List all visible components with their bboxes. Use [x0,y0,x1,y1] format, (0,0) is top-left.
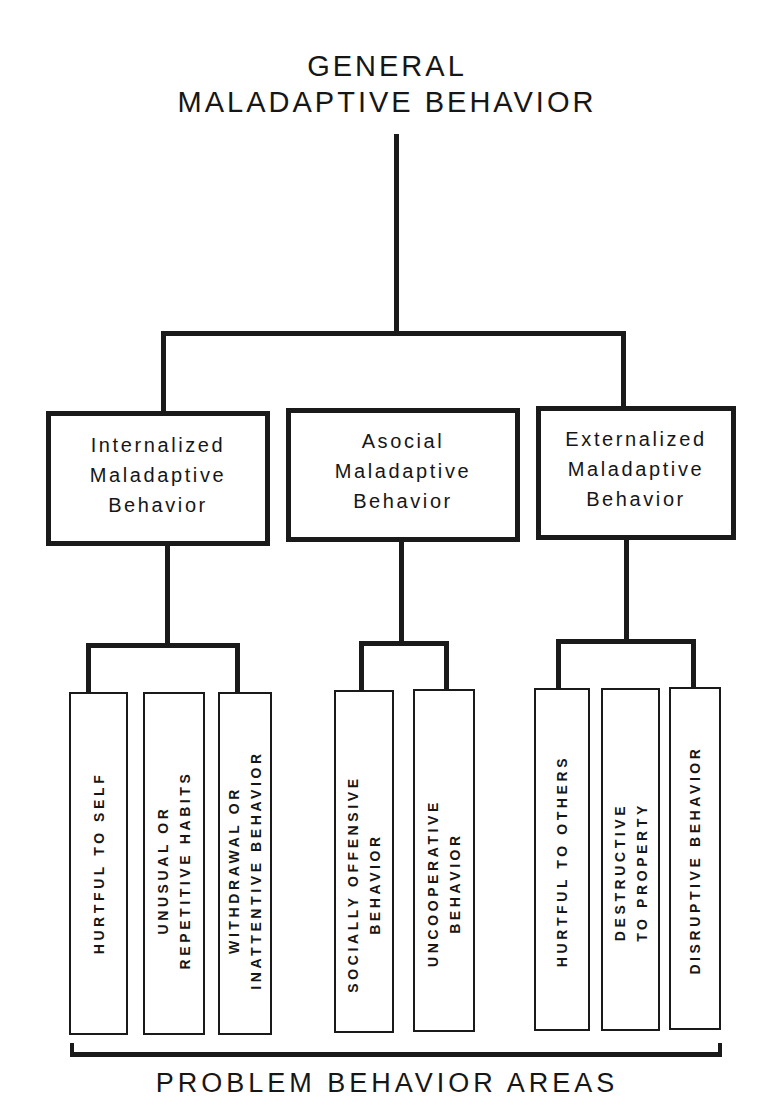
problem-area-hurtful-to-others: HURTFUL TO OTHERS [534,688,590,1031]
category-label-line: Maladaptive [568,454,704,484]
problem-area-label: HURTFUL TO SELF [88,772,110,955]
problem-area-destructive-to-property: DESTRUCTIVE TO PROPERTY [601,688,660,1031]
asocial-drop-2 [444,641,449,691]
internalized-down-connector [165,544,170,646]
problem-area-label: UNCOOPERATIVE BEHAVIOR [422,799,466,967]
externalized-drop-3 [691,639,696,689]
problem-area-withdrawal-inattentive: WITHDRAWAL OR INATTENTIVE BEHAVIOR [218,692,272,1035]
connector-to-internalized [161,331,166,413]
diagram-title-line-2: MALADAPTIVE BEHAVIOR [0,88,774,117]
root-vertical-connector [394,134,399,336]
problem-area-label: DISRUPTIVE BEHAVIOR [684,745,706,974]
internalized-drop-1 [86,643,91,693]
category-label-line: Externalized [565,424,706,454]
problem-areas-bracket [70,1043,722,1057]
problem-behavior-areas-label: PROBLEM BEHAVIOR AREAS [0,1070,774,1097]
connector-to-externalized [621,331,626,409]
category-label-line: Behavior [108,490,208,520]
problem-area-unusual-repetitive-habits: UNUSUAL OR REPETITIVE HABITS [143,692,205,1035]
category-label-line: Asocial [362,426,445,456]
internalized-branch-bar [86,643,240,648]
externalized-down-connector [624,538,629,642]
category-label-line: Maladaptive [90,460,226,490]
problem-area-label: UNUSUAL OR REPETITIVE HABITS [152,771,196,970]
problem-area-uncooperative: UNCOOPERATIVE BEHAVIOR [413,689,475,1032]
category-box-externalized: Externalized Maladaptive Behavior [536,406,736,540]
problem-area-label: HURTFUL TO OTHERS [551,755,573,967]
internalized-drop-3 [235,643,240,693]
problem-area-label: WITHDRAWAL OR INATTENTIVE BEHAVIOR [223,750,267,990]
problem-area-disruptive-behavior: DISRUPTIVE BEHAVIOR [669,687,721,1030]
problem-area-socially-offensive: SOCIALLY OFFENSIVE BEHAVIOR [334,690,394,1033]
category-label-line: Behavior [353,486,453,516]
externalized-branch-bar [556,639,696,644]
diagram-title-line-1: GENERAL [0,52,774,81]
asocial-branch-bar [359,641,449,646]
root-horizontal-connector [161,331,626,336]
category-box-asocial: Asocial Maladaptive Behavior [286,408,520,542]
category-label-line: Internalized [91,430,226,460]
problem-area-label: SOCIALLY OFFENSIVE BEHAVIOR [342,775,386,992]
problem-area-hurtful-to-self: HURTFUL TO SELF [69,692,128,1035]
problem-area-label: DESTRUCTIVE TO PROPERTY [609,802,653,942]
externalized-drop-1 [556,639,561,689]
category-box-internalized: Internalized Maladaptive Behavior [46,411,270,546]
asocial-down-connector [399,540,404,644]
asocial-drop-1 [359,641,364,691]
category-label-line: Behavior [586,484,686,514]
category-label-line: Maladaptive [335,456,471,486]
